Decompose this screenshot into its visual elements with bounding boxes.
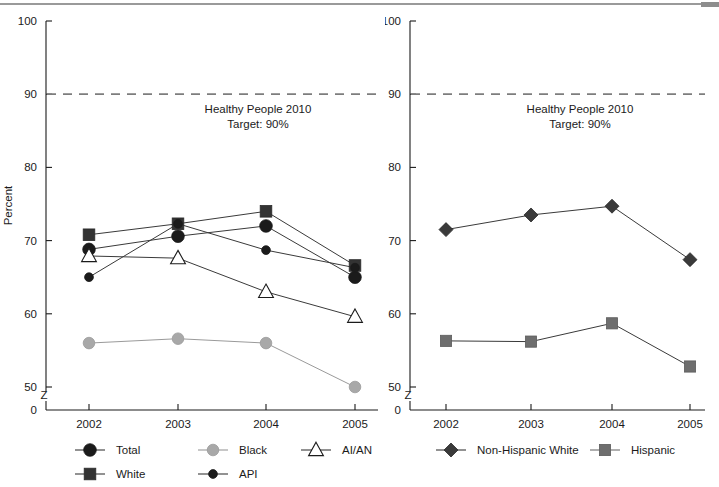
datapoint-hispanic-2004-marker-square-gray [606,318,617,329]
series-line-non-hispanic-white [446,206,690,259]
datapoint-total-2003-marker-circle [172,230,185,243]
legend-label-hispanic: Hispanic [631,444,675,456]
series-line-hispanic [446,323,690,366]
legend: Non-Hispanic WhiteHispanic [436,443,675,457]
y-axis-break-glyph: Z [404,389,411,401]
y-tick-label-60: 60 [388,308,401,320]
series-markers-white [83,206,361,272]
series-line-total [89,226,355,277]
legend-marker-hispanic-marker-square-gray [599,444,610,455]
y-tick-label-50: 50 [24,381,37,393]
series-markers-api [85,219,360,281]
legend-label-total: Total [116,444,140,456]
legend: TotalBlackAI/ANWhiteAPI [75,442,372,480]
datapoint-api-2003-marker-circle-small [174,219,183,228]
datapoint-non-hispanic-white-2003-marker-diamond [524,208,538,222]
legend-label-black: Black [239,444,267,456]
datapoint-total-2004-marker-circle [260,220,273,233]
series-markers-non-hispanic-white [439,199,697,266]
y-tick-label-90: 90 [24,88,37,100]
legend-marker-black-marker-circle-gray [207,444,219,456]
chart-panel-left: Z10090807060500Percent2002200320042005He… [0,0,385,487]
y-tick-label-80: 80 [388,161,401,173]
series-line-black [89,339,355,387]
y-tick-label-70: 70 [24,235,37,247]
left-chart-svg: Z10090807060500Percent2002200320042005He… [0,0,385,487]
datapoint-non-hispanic-white-2002-marker-diamond [439,223,453,237]
datapoint-hispanic-2003-marker-square-gray [525,336,536,347]
datapoint-api-2004-marker-circle-small [262,246,271,255]
target-annotation-line1: Healthy People 2010 [205,103,312,115]
x-tick-label-2004: 2004 [599,418,625,430]
y-tick-label-100: 100 [18,15,37,27]
legend-marker-white-marker-square [84,468,96,480]
datapoint-non-hispanic-white-2005-marker-diamond [683,253,697,267]
x-tick-label-2005: 2005 [677,418,703,430]
y-tick-label-80: 80 [24,161,37,173]
datapoint-black-2002-marker-circle-gray [83,337,95,349]
datapoint-hispanic-2005-marker-square-gray [684,361,695,372]
legend-marker-non-hispanic-white-marker-diamond [444,443,458,457]
datapoint-total-2005-marker-circle [349,271,362,284]
series-markers-hispanic [440,318,695,372]
datapoint-api-2002-marker-circle-small [85,273,94,282]
y-axis-break: Z [40,389,47,401]
x-tick-label-2003: 2003 [165,418,191,430]
series-line-api [89,224,355,277]
x-tick-label-2004: 2004 [253,418,279,430]
series-markers-ai-an [82,248,363,322]
y-tick-label-50: 50 [388,381,401,393]
legend-marker-ai-an-marker-triangle-open [309,442,324,455]
legend-label-api: API [239,468,258,480]
right-chart-svg: Z10090807060500Percent2002200320042005He… [385,0,719,487]
legend-label-ai-an: AI/AN [342,444,372,456]
legend-label-white: White [116,468,145,480]
x-tick-label-2002: 2002 [433,418,459,430]
datapoint-black-2004-marker-circle-gray [260,337,272,349]
series-line-ai-an [89,256,355,317]
x-tick-label-2002: 2002 [76,418,102,430]
series-markers-total [83,220,362,284]
datapoint-non-hispanic-white-2004-marker-diamond [605,199,619,213]
series-markers-black [83,333,361,393]
legend-marker-total-marker-circle [84,444,97,457]
datapoint-api-2005-marker-circle-small [351,263,360,272]
y-tick-label-100: 100 [385,15,401,27]
y-axis-break-glyph: Z [40,389,47,401]
datapoint-ai-an-2004-marker-triangle-open [259,284,274,297]
datapoint-black-2005-marker-circle-gray [349,381,361,393]
datapoint-white-2002-marker-square [83,229,95,241]
y-tick-label-60: 60 [24,308,37,320]
y-axis-break: Z [404,389,411,401]
datapoint-white-2004-marker-square [260,206,272,218]
y-axis-title: Percent [2,185,14,225]
legend-marker-api-marker-circle-small [209,470,218,479]
chart-panel-right: Z10090807060500Percent2002200320042005He… [385,0,719,487]
y-tick-label-0: 0 [395,404,401,416]
y-tick-label-70: 70 [388,235,401,247]
y-tick-label-90: 90 [388,88,401,100]
target-annotation-line2: Target: 90% [227,118,288,130]
legend-label-non-hispanic-white: Non-Hispanic White [477,444,579,456]
datapoint-ai-an-2003-marker-triangle-open [171,250,186,263]
x-tick-label-2003: 2003 [518,418,544,430]
y-tick-label-0: 0 [31,404,37,416]
datapoint-hispanic-2002-marker-square-gray [440,335,451,346]
target-annotation-line1: Healthy People 2010 [527,103,634,115]
target-annotation-line2: Target: 90% [549,118,610,130]
x-tick-label-2005: 2005 [342,418,368,430]
datapoint-black-2003-marker-circle-gray [172,333,184,345]
